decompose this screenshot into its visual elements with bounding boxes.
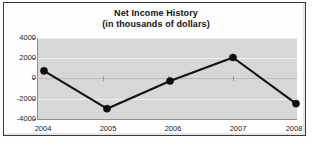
- y-tick-label: -2000: [2, 95, 36, 103]
- y-tick-label: 2000: [2, 54, 36, 62]
- data-point-2006: [166, 77, 173, 84]
- x-tick-label-2008: 2008: [274, 124, 312, 133]
- y-tick-label: 4000: [2, 34, 36, 42]
- x-tick-label-2004: 2004: [23, 124, 63, 133]
- data-point-2007: [229, 54, 236, 61]
- y-tick-mark: [33, 99, 36, 100]
- x-tick-label-2005: 2005: [88, 124, 128, 133]
- x-tick-label-2007: 2007: [218, 124, 258, 133]
- y-tick-mark: [33, 78, 36, 79]
- y-tick-mark: [33, 119, 36, 120]
- y-tick-mark: [33, 38, 36, 39]
- data-point-2004: [40, 67, 47, 74]
- chart-subtitle: (in thousands of dollars): [0, 19, 312, 30]
- data-point-2008: [292, 100, 299, 107]
- chart-title: Net Income History: [0, 8, 312, 19]
- chart-title-block: Net Income History (in thousands of doll…: [0, 8, 312, 30]
- y-tick-mark: [33, 58, 36, 59]
- y-axis: 4000 2000 0 -2000 -4000: [0, 0, 36, 143]
- y-tick-label: 0: [2, 74, 36, 82]
- plot-area: [37, 38, 297, 120]
- x-tick-label-2006: 2006: [153, 124, 193, 133]
- y-tick-label: -4000: [2, 115, 36, 123]
- series-layer: [38, 38, 298, 120]
- data-point-2005: [103, 105, 110, 112]
- chart-screenshot: Net Income History (in thousands of doll…: [0, 0, 312, 143]
